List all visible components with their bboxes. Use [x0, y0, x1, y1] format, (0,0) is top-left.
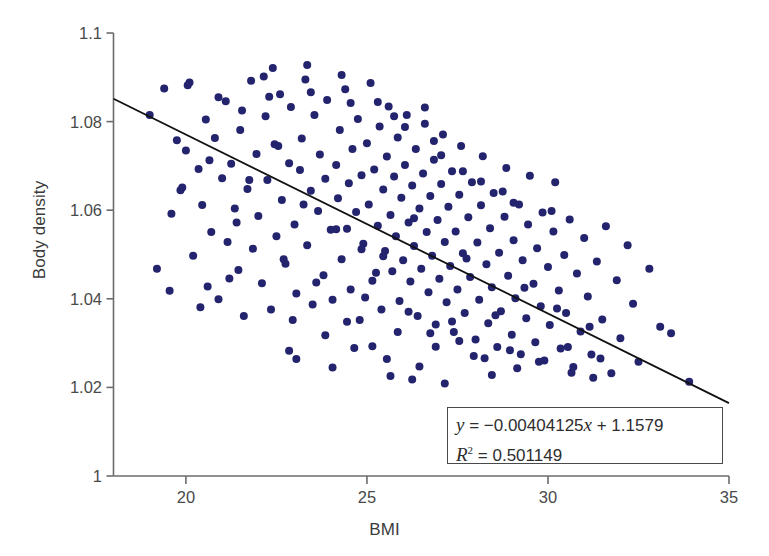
data-point: [424, 288, 432, 296]
data-point: [490, 189, 498, 197]
data-point: [598, 316, 606, 324]
data-point: [338, 255, 346, 263]
data-point: [377, 305, 385, 313]
data-point: [291, 220, 299, 228]
data-point: [473, 239, 481, 247]
data-point: [546, 321, 554, 329]
data-point: [386, 372, 394, 380]
data-point: [573, 270, 581, 278]
data-point: [323, 96, 331, 104]
data-point: [341, 85, 349, 93]
data-point: [457, 142, 465, 150]
data-point: [390, 173, 398, 181]
data-point: [613, 276, 621, 284]
data-point: [461, 309, 469, 317]
data-point: [205, 156, 213, 164]
data-point: [502, 164, 510, 172]
data-point: [276, 90, 284, 98]
scatter-chart-figure: 11.021.041.061.081.1 20253035 Body densi…: [0, 0, 769, 556]
data-point: [491, 311, 499, 319]
data-point: [423, 228, 431, 236]
equation-x-symbol: x: [584, 414, 592, 435]
data-point: [472, 336, 480, 344]
data-point: [484, 319, 492, 327]
data-point: [289, 316, 297, 324]
data-point: [437, 151, 445, 159]
data-point: [415, 204, 423, 212]
data-point: [529, 280, 537, 288]
data-point: [415, 363, 423, 371]
data-point: [566, 216, 574, 224]
data-point: [374, 98, 382, 106]
data-point: [432, 343, 440, 351]
data-point: [240, 312, 248, 320]
data-point: [274, 142, 282, 150]
data-point: [367, 79, 375, 87]
equation-coefficient: = −0.00404125: [464, 416, 583, 435]
data-point: [207, 228, 215, 236]
data-point: [334, 194, 342, 202]
data-point: [319, 271, 327, 279]
data-point: [399, 256, 407, 264]
data-point: [510, 236, 518, 244]
data-point: [482, 260, 490, 268]
data-point: [524, 220, 532, 228]
data-point: [596, 355, 604, 363]
data-point: [557, 344, 565, 352]
data-point: [501, 213, 509, 221]
data-point: [300, 200, 308, 208]
data-point: [348, 145, 356, 153]
data-point: [173, 136, 181, 144]
data-point: [549, 227, 557, 235]
data-point: [332, 225, 340, 233]
data-point: [182, 146, 190, 154]
scatter-points: [146, 61, 693, 388]
data-point: [444, 203, 452, 211]
plot-canvas: [0, 0, 769, 556]
data-point: [405, 308, 413, 316]
data-point: [453, 286, 461, 294]
data-point: [298, 134, 306, 142]
data-point: [231, 204, 239, 212]
data-point: [310, 111, 318, 119]
data-point: [419, 169, 427, 177]
data-point: [526, 172, 534, 180]
data-point: [287, 103, 295, 111]
y-axis-title: Body density: [30, 181, 50, 280]
data-point: [406, 278, 414, 286]
data-point: [408, 181, 416, 189]
data-point: [316, 150, 324, 158]
data-point: [363, 139, 371, 147]
data-point: [477, 177, 485, 185]
r-squared-value: = 0.501149: [473, 446, 562, 465]
data-point: [234, 266, 242, 274]
data-point: [332, 161, 340, 169]
data-point: [441, 379, 449, 387]
data-point: [249, 245, 257, 253]
data-point: [602, 222, 610, 230]
data-point: [432, 320, 440, 328]
data-point: [218, 174, 226, 182]
y-tick-label: 1.1: [40, 24, 102, 43]
data-point: [166, 287, 174, 295]
y-tick-label: 1.02: [40, 378, 102, 397]
data-point: [560, 251, 568, 259]
data-point: [535, 358, 543, 366]
data-point: [285, 159, 293, 167]
data-point: [616, 334, 624, 342]
data-point: [520, 284, 528, 292]
data-point: [510, 199, 518, 207]
data-point: [441, 238, 449, 246]
data-point: [589, 374, 597, 382]
data-point: [184, 81, 192, 89]
data-point: [506, 346, 514, 354]
data-point: [343, 225, 351, 233]
data-point: [475, 296, 483, 304]
data-point: [624, 241, 632, 249]
data-point: [198, 201, 206, 209]
data-point: [385, 103, 393, 111]
data-point: [269, 64, 277, 72]
data-point: [307, 187, 315, 195]
data-point: [202, 115, 210, 123]
data-point: [452, 227, 460, 235]
